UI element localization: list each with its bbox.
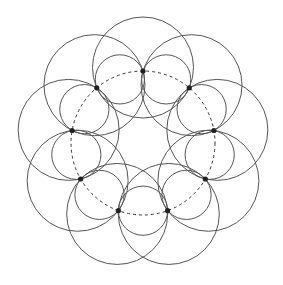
small-circle xyxy=(60,85,109,134)
small-circle xyxy=(95,55,144,104)
intersection-points xyxy=(69,68,216,213)
point-dot xyxy=(69,128,74,133)
small-circle xyxy=(52,130,101,179)
large-circle xyxy=(44,35,145,136)
point-dot xyxy=(203,176,208,181)
large-circle xyxy=(27,130,128,231)
small-circles xyxy=(52,55,235,236)
large-circle xyxy=(158,130,259,231)
point-dot xyxy=(140,68,145,73)
point-dot xyxy=(94,85,99,90)
circle-pattern-diagram xyxy=(0,0,283,285)
point-dot xyxy=(211,128,216,133)
small-circle xyxy=(177,85,226,134)
small-circle xyxy=(185,130,234,179)
diagram-svg xyxy=(0,0,283,285)
point-dot xyxy=(116,208,121,213)
point-dot xyxy=(165,208,170,213)
point-dot xyxy=(78,176,83,181)
small-circle xyxy=(118,186,167,235)
dashed-guide-circle xyxy=(71,71,215,215)
guide-circle xyxy=(71,71,215,215)
small-circle xyxy=(142,55,191,104)
point-dot xyxy=(187,85,192,90)
large-circle xyxy=(141,35,242,136)
